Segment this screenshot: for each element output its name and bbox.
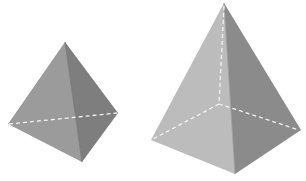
triangular-pyramid: [8, 42, 118, 162]
square-pyramid: [151, 3, 301, 174]
pyramids-figure: [0, 0, 306, 181]
square-pyramid-right-face: [224, 3, 301, 174]
